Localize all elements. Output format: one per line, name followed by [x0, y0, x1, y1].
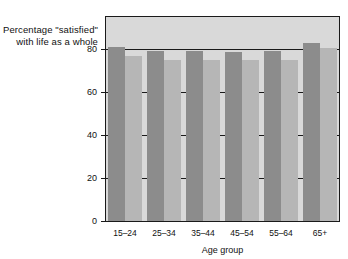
y-tick-mark-40: [101, 135, 105, 136]
y-axis-title-line-1: Percentage "satisfied": [0, 24, 98, 36]
y-tick-label-40: 40: [71, 131, 97, 140]
bar-series-1-15–24: [108, 47, 125, 221]
bar-series-2-15–24: [125, 56, 142, 221]
x-tick-label-35–44: 35–44: [183, 228, 223, 238]
y-tick-mark-80: [101, 49, 105, 50]
x-tick-label-25–34: 25–34: [144, 228, 184, 238]
chart-figure: Percentage "satisfied" with life as a wh…: [0, 0, 348, 259]
y-tick-mark-60: [101, 92, 105, 93]
y-tick-label-20: 20: [71, 174, 97, 183]
bar-series-1-45–54: [225, 52, 242, 221]
bar-series-1-55–64: [264, 51, 281, 221]
bar-series-2-35–44: [203, 60, 220, 221]
bar-series-1-25–34: [147, 51, 164, 221]
y-tick-mark-20: [101, 178, 105, 179]
plot-area: [105, 16, 340, 222]
bar-series-2-55–64: [281, 60, 298, 221]
y-tick-mark-0: [101, 221, 105, 222]
bar-series-2-25–34: [164, 60, 181, 221]
y-tick-label-0: 0: [71, 217, 97, 226]
bar-series-2-65+: [320, 48, 337, 221]
y-tick-label-80: 80: [71, 45, 97, 54]
y-tick-label-60: 60: [71, 88, 97, 97]
x-tick-label-55–64: 55–64: [261, 228, 301, 238]
bars-layer: [106, 17, 339, 221]
bar-series-1-35–44: [186, 51, 203, 221]
x-axis-title: Age group: [105, 245, 340, 255]
x-tick-label-65+: 65+: [300, 228, 340, 238]
bar-series-1-65+: [303, 43, 320, 221]
bar-series-2-45–54: [242, 60, 259, 221]
x-tick-label-15–24: 15–24: [105, 228, 145, 238]
x-tick-label-45–54: 45–54: [222, 228, 262, 238]
